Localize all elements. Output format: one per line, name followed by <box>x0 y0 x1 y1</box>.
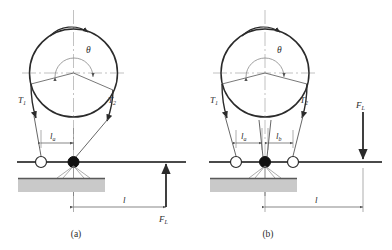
radius-left-a <box>31 73 74 84</box>
link-center-left-b <box>259 120 263 157</box>
link-right-b <box>293 116 303 156</box>
ground-block-a <box>18 178 105 192</box>
roller-support-left-b <box>231 157 242 168</box>
tension-label-1-b: T1 <box>210 95 218 106</box>
tension-label-1-a: T1 <box>18 95 26 106</box>
radius-left-b <box>222 73 265 84</box>
mechanics-diagram: T1 T2 la l FL θ (a) <box>0 0 392 250</box>
radius-right-b <box>265 73 307 84</box>
roller-support-right-b <box>288 157 299 168</box>
lever-arm-label-la-b: la <box>241 131 247 142</box>
tension-label-2-a: T2 <box>108 95 116 106</box>
lever-arm-label-la-a: la <box>50 131 56 142</box>
panel-caption-b: (b) <box>262 229 273 240</box>
link-right-a <box>75 119 108 158</box>
rotation-arrow-b <box>242 27 280 36</box>
roller-support-a <box>36 157 47 168</box>
rotation-arrow-a <box>50 27 88 36</box>
ground-block-b <box>210 178 297 192</box>
link-left-b <box>225 116 236 156</box>
link-center-right-b <box>267 120 271 157</box>
panel-b: T1 T2 la lb l FL θ (b) <box>209 10 382 240</box>
pivot-b <box>260 157 271 168</box>
theta-arc-a <box>55 58 93 77</box>
distance-label-l-a: l <box>123 195 126 205</box>
tension-cable-1-a <box>31 84 36 118</box>
load-force-label-b: FL <box>355 100 366 111</box>
panel-caption-a: (a) <box>71 229 82 240</box>
pivot-a <box>68 157 79 168</box>
load-force-label-a: FL <box>158 214 169 225</box>
lever-arm-label-lb-b: lb <box>276 131 282 142</box>
distance-label-l-b: l <box>315 195 318 205</box>
figure-container: T1 T2 la l FL θ (a) <box>0 0 392 250</box>
link-left-a <box>34 116 41 156</box>
theta-label-a: θ <box>86 45 91 55</box>
theta-label-b: θ <box>277 45 282 55</box>
panel-a: T1 T2 la l FL θ (a) <box>17 10 186 240</box>
